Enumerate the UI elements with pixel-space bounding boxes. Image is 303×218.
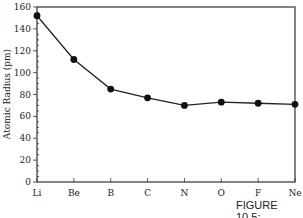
x-tick-label: B	[107, 188, 114, 198]
y-axis-title: Atomic Radius (pm)	[2, 49, 12, 140]
y-tick-label: 140	[14, 24, 31, 34]
y-tick-label: 120	[14, 46, 31, 56]
x-tick-label: N	[180, 188, 188, 198]
data-point-marker	[107, 86, 114, 93]
data-series	[34, 12, 299, 108]
plot-frame	[37, 7, 295, 182]
data-point-marker	[70, 56, 77, 63]
y-tick-label: 0	[25, 177, 31, 187]
x-tick-label: Ne	[288, 188, 301, 198]
figure-caption: FIGURE 10.5:	[236, 199, 303, 218]
x-tick-label: C	[144, 188, 151, 198]
data-point-marker	[218, 99, 225, 106]
y-tick-label: 40	[20, 133, 32, 143]
y-axis-ticks: 020406080100120140160	[14, 2, 39, 187]
y-tick-label: 80	[20, 90, 32, 100]
y-tick-label: 20	[20, 155, 32, 165]
atomic-radius-chart: 020406080100120140160 LiBeBCNOFNe Atomic…	[0, 0, 303, 218]
data-point-marker	[255, 100, 262, 107]
x-axis-ticks: LiBeBCNOFNe	[33, 178, 302, 198]
x-tick-label: Li	[33, 188, 42, 198]
data-point-marker	[292, 101, 299, 108]
x-tick-label: Be	[68, 188, 80, 198]
y-tick-label: 160	[14, 2, 31, 12]
y-tick-label: 60	[20, 111, 32, 121]
x-tick-label: F	[255, 188, 261, 198]
data-point-marker	[34, 12, 41, 19]
y-tick-label: 100	[14, 68, 31, 78]
x-tick-label: O	[218, 188, 225, 198]
data-point-marker	[144, 94, 151, 101]
data-point-marker	[181, 102, 188, 109]
